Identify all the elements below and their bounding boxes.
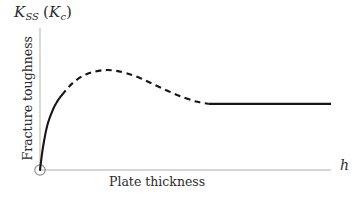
y-axis-symbol-label: KSS(Kc) — [14, 5, 72, 22]
y-symbol-paren-base: K — [49, 3, 60, 21]
curve-dashed-transition — [62, 70, 209, 104]
plot-canvas — [0, 0, 359, 199]
curve-solid-rise — [40, 95, 62, 170]
y-symbol-close-paren: ) — [66, 3, 72, 21]
x-axis-symbol-label: h — [340, 158, 349, 172]
y-symbol-base: K — [14, 3, 25, 21]
y-axis-title: Fracture toughness — [22, 34, 35, 162]
y-symbol-subscript: SS — [25, 11, 39, 22]
fracture-toughness-figure: KSS(Kc) Fracture toughness Plate thickne… — [0, 0, 359, 199]
x-axis-title: Plate thickness — [109, 176, 205, 189]
